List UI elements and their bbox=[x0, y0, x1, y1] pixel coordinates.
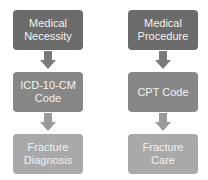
node-icd-10-cm-code: ICD-10-CM Code bbox=[13, 72, 83, 112]
node-fracture-diagnosis: Fracture Diagnosis bbox=[13, 134, 83, 174]
arrow-down-icon bbox=[40, 51, 56, 71]
arrow-down-icon bbox=[155, 113, 171, 133]
arrow-down-icon bbox=[40, 113, 56, 133]
node-medical-necessity: Medical Necessity bbox=[13, 10, 83, 50]
node-cpt-code: CPT Code bbox=[128, 72, 198, 112]
node-fracture-care: Fracture Care bbox=[128, 134, 198, 174]
arrow-down-icon bbox=[155, 51, 171, 71]
node-medical-procedure: Medical Procedure bbox=[128, 10, 198, 50]
